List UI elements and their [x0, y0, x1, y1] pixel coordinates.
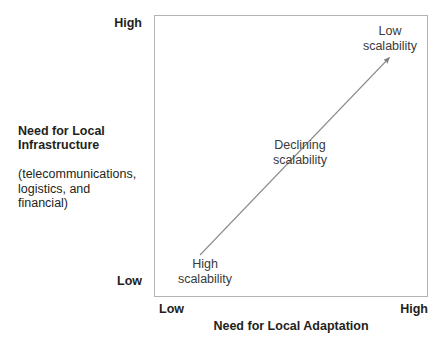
y-axis-high-label: High: [22, 16, 142, 31]
x-axis-low-label: Low: [159, 302, 184, 317]
annotation-high-scalability: High scalability: [155, 257, 255, 286]
y-axis-title: Need for Local Infrastructure (telecommu…: [18, 109, 150, 225]
y-axis-title-main: Need for Local Infrastructure: [18, 124, 150, 153]
annotation-low-scalability: Low scalability: [340, 24, 440, 53]
scalability-matrix-figure: High Low Need for Local Infrastructure (…: [0, 0, 444, 340]
y-axis-low-label: Low: [22, 274, 142, 289]
y-axis-title-subtitle: (telecommunications, logistics, and fina…: [18, 167, 150, 211]
x-axis-high-label: High: [308, 302, 428, 317]
annotation-declining-scalability: Declining scalability: [248, 138, 352, 167]
x-axis-title: Need for Local Adaptation: [154, 319, 428, 334]
